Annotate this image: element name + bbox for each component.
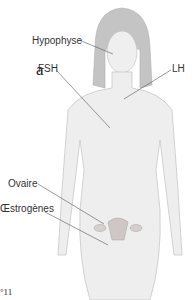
anatomy-diagram: [0, 0, 194, 300]
label-lh: LH: [172, 63, 185, 74]
body-outline: [58, 72, 182, 300]
head: [107, 31, 137, 73]
label-oestrogenes: Œstrogènes: [0, 203, 54, 214]
cropped-caption-fragment: °11: [0, 287, 12, 297]
label-ovaire: Ovaire: [8, 178, 37, 189]
label-fsh: FSH: [38, 63, 58, 74]
label-hypophyse: Hypophyse: [32, 35, 82, 46]
